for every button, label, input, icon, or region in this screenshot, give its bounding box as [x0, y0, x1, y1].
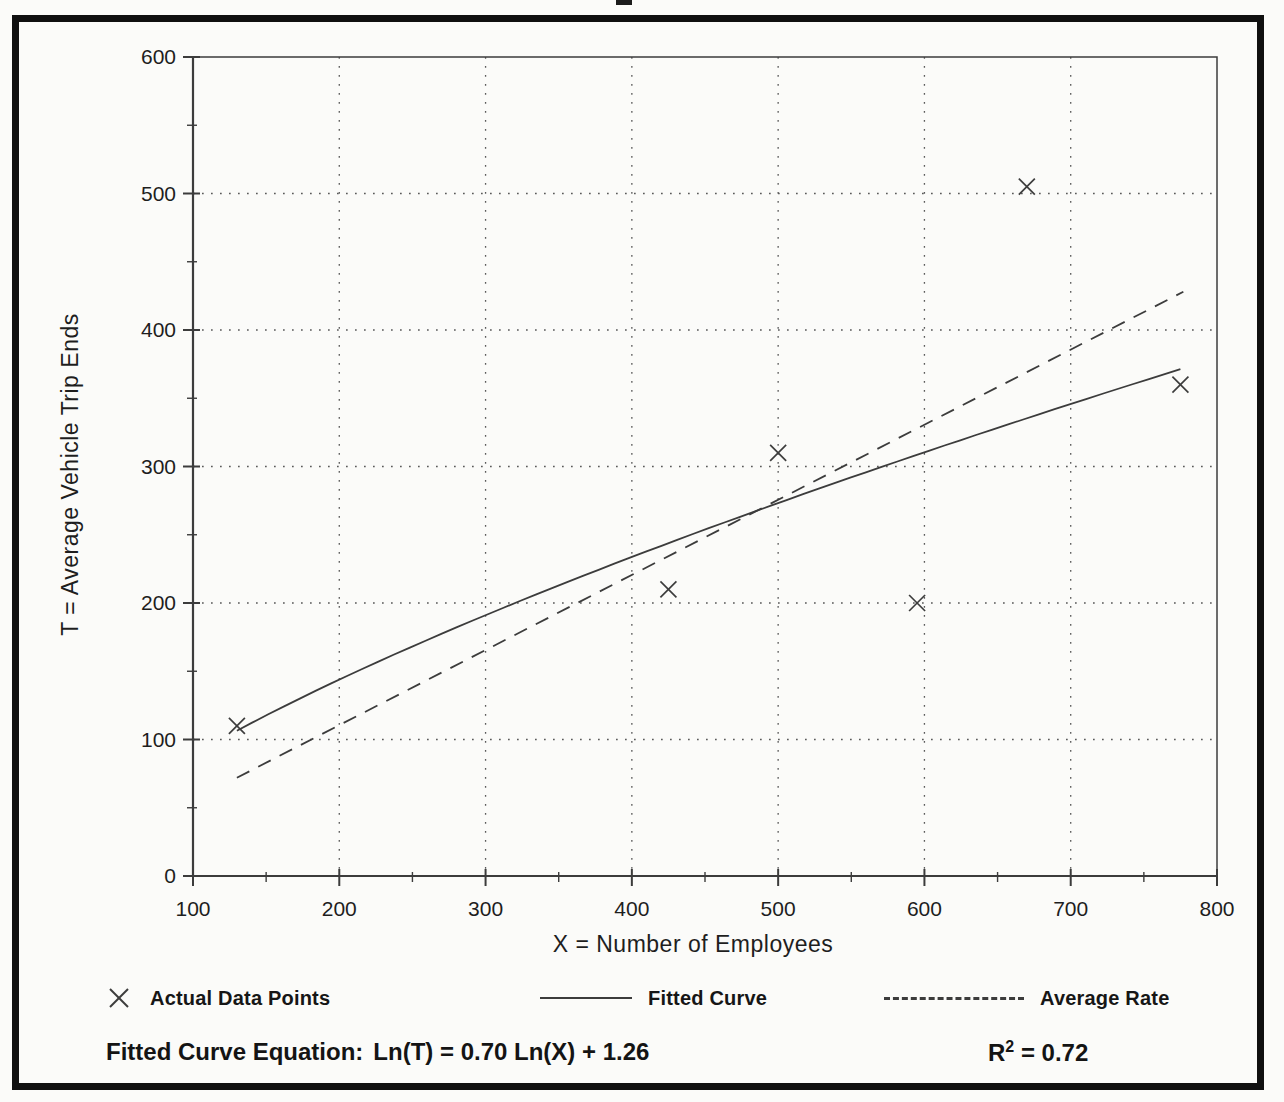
trip-generation-chart-figure: 1002003004005006007008000100200300400500… [0, 0, 1284, 1102]
r2-rest: = 0.72 [1014, 1039, 1088, 1066]
svg-text:200: 200 [141, 591, 176, 614]
svg-text:100: 100 [141, 728, 176, 751]
equation-value: Ln(T) = 0.70 Ln(X) + 1.26 [373, 1038, 649, 1065]
dashed-line-icon [884, 997, 1024, 1000]
r-squared-value: R2 = 0.72 [988, 1038, 1088, 1067]
legend-label-actual-data-points: Actual Data Points [150, 987, 330, 1010]
r2-base: R [988, 1039, 1005, 1066]
svg-text:200: 200 [322, 897, 357, 920]
equation-label: Fitted Curve Equation: [106, 1038, 363, 1065]
legend-item-fitted-curve: Fitted Curve [540, 980, 767, 1016]
svg-text:T = Average Vehicle Trip Ends: T = Average Vehicle Trip Ends [57, 313, 83, 635]
x-marker-icon [106, 985, 132, 1011]
legend-item-actual-data-points: Actual Data Points [106, 980, 330, 1016]
fitted-curve-equation: Fitted Curve Equation:Ln(T) = 0.70 Ln(X)… [106, 1038, 649, 1066]
svg-text:700: 700 [1053, 897, 1088, 920]
svg-text:600: 600 [907, 897, 942, 920]
legend-item-average-rate: Average Rate [884, 980, 1170, 1016]
svg-text:X = Number of Employees: X = Number of Employees [553, 931, 834, 957]
svg-text:400: 400 [141, 318, 176, 341]
svg-text:600: 600 [141, 45, 176, 68]
legend: Actual Data Points Fitted Curve Average … [0, 980, 1284, 1016]
legend-label-fitted-curve: Fitted Curve [648, 987, 767, 1010]
equation-row: Fitted Curve Equation:Ln(T) = 0.70 Ln(X)… [0, 1038, 1284, 1074]
svg-text:800: 800 [1199, 897, 1234, 920]
solid-line-icon [540, 997, 632, 999]
svg-text:0: 0 [164, 864, 176, 887]
svg-text:300: 300 [141, 455, 176, 478]
svg-text:500: 500 [761, 897, 796, 920]
scatter-plot: 1002003004005006007008000100200300400500… [0, 0, 1284, 1102]
r2-exponent: 2 [1005, 1038, 1014, 1055]
legend-label-average-rate: Average Rate [1040, 987, 1170, 1010]
svg-text:500: 500 [141, 182, 176, 205]
svg-text:300: 300 [468, 897, 503, 920]
svg-text:100: 100 [175, 897, 210, 920]
svg-text:400: 400 [614, 897, 649, 920]
